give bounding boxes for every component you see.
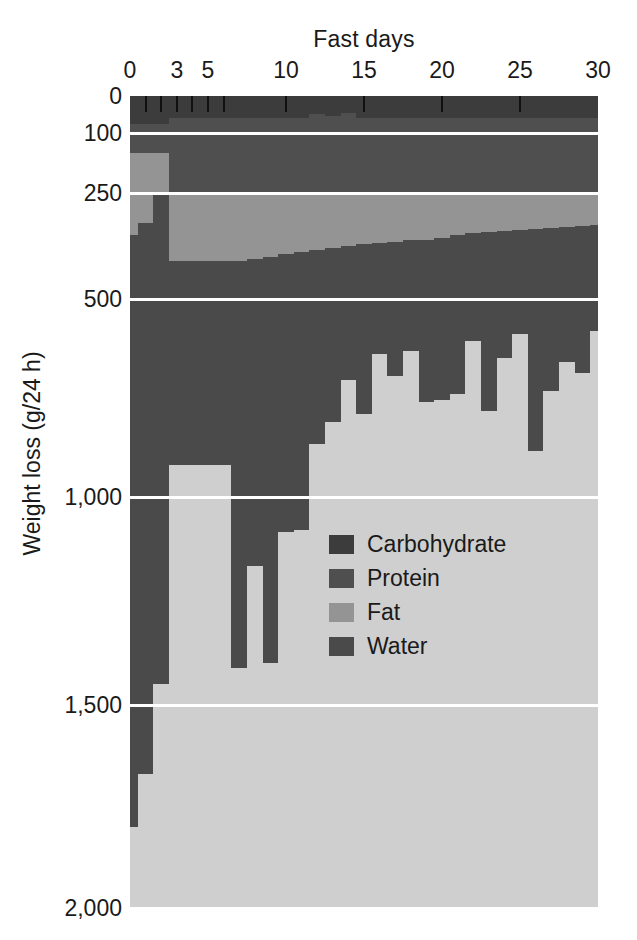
tick-mark-day-2	[160, 96, 162, 112]
y-axis-title: Weight loss (g/24 h)	[19, 304, 46, 604]
tick-mark-day-4	[191, 96, 193, 112]
x-axis-title: Fast days	[130, 26, 598, 53]
tick-mark-day-20	[441, 96, 443, 112]
tick-mark-day-25	[519, 96, 521, 112]
legend-item-protein: Protein	[329, 561, 506, 595]
tick-mark-day-3	[176, 96, 178, 112]
gridline-100	[130, 132, 598, 135]
legend-label-protein: Protein	[367, 567, 440, 590]
gridline-2000	[130, 907, 598, 909]
chart-legend: CarbohydrateProteinFatWater	[329, 527, 506, 663]
x-tick-label-25: 25	[507, 57, 533, 84]
x-tick-label-3: 3	[170, 57, 183, 84]
legend-item-carbohydrate: Carbohydrate	[329, 527, 506, 561]
x-tick-label-15: 15	[351, 57, 377, 84]
x-tick-label-10: 10	[273, 57, 299, 84]
legend-swatch-fat	[329, 603, 354, 622]
stacked-area-paths	[130, 96, 598, 908]
tick-mark-day-6	[223, 96, 225, 112]
chart-figure: Fast days 0351015202530 01002505001,0001…	[0, 0, 637, 940]
plot-area	[130, 96, 598, 908]
y-tick-label-0: 0	[109, 83, 122, 110]
gridline-500	[130, 298, 598, 301]
x-tick-label-0: 0	[124, 57, 137, 84]
y-tick-label-500: 500	[84, 286, 122, 313]
y-tick-label-1500: 1,500	[64, 692, 122, 719]
tick-mark-day-1	[145, 96, 147, 112]
legend-swatch-protein	[329, 569, 354, 588]
gridline-1000	[130, 496, 598, 499]
gridline-1500	[130, 704, 598, 707]
legend-item-water: Water	[329, 629, 506, 663]
area-band-protein	[130, 113, 598, 193]
y-tick-label-250: 250	[84, 180, 122, 207]
y-tick-label-2000: 2,000	[64, 895, 122, 922]
legend-label-water: Water	[367, 635, 428, 658]
y-tick-label-1000: 1,000	[64, 484, 122, 511]
tick-mark-day-5	[207, 96, 209, 112]
tick-mark-day-10	[285, 96, 287, 112]
x-tick-label-30: 30	[585, 57, 611, 84]
gridline-250	[130, 192, 598, 195]
legend-label-fat: Fat	[367, 601, 400, 624]
legend-swatch-carbohydrate	[329, 535, 354, 554]
legend-swatch-water	[329, 637, 354, 656]
tick-mark-day-15	[363, 96, 365, 112]
y-tick-label-100: 100	[84, 120, 122, 147]
legend-item-fat: Fat	[329, 595, 506, 629]
legend-label-carbohydrate: Carbohydrate	[367, 533, 506, 556]
x-tick-label-20: 20	[429, 57, 455, 84]
x-tick-label-5: 5	[202, 57, 215, 84]
